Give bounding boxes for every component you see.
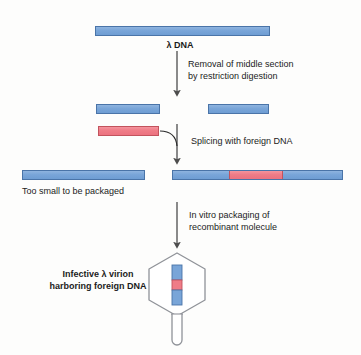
left-arm-bar	[96, 104, 160, 114]
step3-packaging-label: In vitro packaging of recombinant molecu…	[189, 210, 349, 233]
too-small-molecule-bar	[22, 170, 145, 180]
too-small-label: Too small to be packaged	[22, 186, 172, 198]
step1-removal-label: Removal of middle section by restriction…	[188, 59, 348, 82]
curved-connector-foreign-dna	[160, 131, 177, 146]
step2-splicing-label: Splicing with foreign DNA	[191, 136, 361, 148]
virion-dna-blue-bottom	[172, 290, 182, 305]
foreign-dna-bar	[98, 126, 159, 136]
right-arm-bar	[208, 104, 269, 114]
virion-dna-blue-top	[172, 265, 182, 280]
virion-tail-tube	[172, 314, 182, 345]
lambda-dna-label: λ DNA	[130, 40, 230, 52]
figure-canvas: λ DNA Removal of middle section by restr…	[0, 0, 361, 355]
virion-drawing	[149, 253, 205, 345]
full-lambda-dna-bar	[95, 26, 270, 36]
recombinant-molecule-bar	[172, 170, 343, 180]
virion-label: Infective λ virion harboring foreign DNA	[38, 268, 158, 292]
virion-dna-red-middle	[172, 280, 182, 290]
recombinant-foreign-segment	[229, 171, 283, 179]
